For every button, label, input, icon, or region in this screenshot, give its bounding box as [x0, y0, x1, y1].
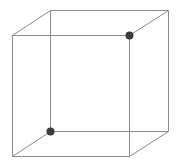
cube-edge — [13, 132, 51, 157]
cube-edge — [130, 132, 169, 157]
cube-edge — [130, 11, 169, 36]
cube-edges — [13, 11, 169, 157]
cube-diagram — [0, 0, 180, 164]
vertex-dot — [47, 128, 55, 136]
cube-edge — [13, 11, 51, 36]
highlighted-vertices — [47, 32, 134, 136]
vertex-dot — [126, 32, 134, 40]
